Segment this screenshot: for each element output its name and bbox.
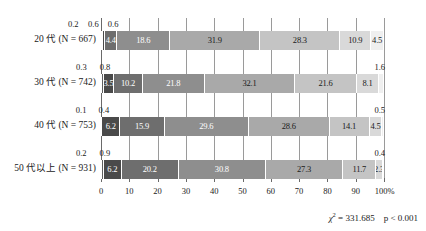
tick-label-60: 60 <box>267 186 276 196</box>
chi-square-exponent: 2 <box>333 211 336 218</box>
segment-callout-label: 0.4 <box>99 105 110 115</box>
bar-segment: 3.5 <box>104 74 114 93</box>
segment-value-label: 28.3 <box>293 36 307 45</box>
segment-value-label: 29.6 <box>199 122 213 131</box>
segment-value-label: 21.6 <box>318 79 332 88</box>
segment-value-label: 28.6 <box>282 122 296 131</box>
tick-label-90: 90 <box>351 186 360 196</box>
bar-segment: 6.2 <box>104 160 122 179</box>
bar-segment: 30.8 <box>179 160 266 179</box>
tick-100 <box>384 178 385 182</box>
bar-segment: 21.8 <box>143 74 205 93</box>
tick-label-80: 80 <box>323 186 332 196</box>
tick-label-10: 10 <box>125 186 134 196</box>
tick-label-100%: 100% <box>375 186 395 196</box>
bar-segment: 6.2 <box>102 117 120 136</box>
bar-segment <box>383 160 384 179</box>
segment-callout-label: 0.8 <box>100 62 111 72</box>
bar-segment <box>382 117 383 136</box>
segment-callout-label: 0.1 <box>76 105 87 115</box>
bar-segment: 29.6 <box>165 117 249 136</box>
segment-callout-label-right: 0.5 <box>374 105 385 115</box>
tick-label-70: 70 <box>295 186 304 196</box>
segment-value-label: 20.2 <box>143 165 157 174</box>
segment-value-label: 3.5 <box>104 79 113 88</box>
chi-square-value: = 331.685 <box>338 213 375 223</box>
segment-value-label: 18.6 <box>136 36 150 45</box>
bar-segment: 10.2 <box>114 74 143 93</box>
bar-segment: 27.3 <box>266 160 343 179</box>
segment-callout-label-right: 1.6 <box>374 62 385 72</box>
segment-value-label: 6.2 <box>107 165 117 174</box>
bar-segment: 32.1 <box>205 74 296 93</box>
tick-label-20: 20 <box>153 186 162 196</box>
bar-segment: 18.6 <box>117 31 170 50</box>
tick-label-30: 30 <box>182 186 191 196</box>
segment-value-label: 30.8 <box>215 165 229 174</box>
segment-value-label: 32.1 <box>242 79 256 88</box>
y-axis-label-row-3: 50 代以上 (N = 931) <box>14 160 96 174</box>
segment-callout-label: 0.6 <box>108 19 119 29</box>
segment-value-label: 8.1 <box>362 79 372 88</box>
segment-callout-label: 0.6 <box>88 19 99 29</box>
segment-value-label: 10.2 <box>121 79 135 88</box>
y-axis-label-row-2: 40 代 (N = 753) <box>34 117 96 131</box>
plot-area: 0102030405060708090100% 4.418.631.928.31… <box>101 18 384 178</box>
segment-value-label: 15.9 <box>135 122 149 131</box>
bar-row: 6.220.230.827.311.72.3 <box>101 160 384 179</box>
bar-segment: 28.6 <box>249 117 330 136</box>
bar-segment: 4.5 <box>371 31 384 50</box>
segment-value-label: 14.1 <box>342 122 356 131</box>
bar-segment: 4.4 <box>105 31 117 50</box>
segment-value-label: 27.3 <box>297 165 311 174</box>
bar-segment: 2.3 <box>376 160 383 179</box>
bar-row: 4.418.631.928.310.94.5 <box>101 31 384 50</box>
segment-value-label: 31.9 <box>208 36 222 45</box>
segment-value-label: 11.7 <box>352 165 366 174</box>
y-axis-label-row-1: 30 代 (N = 742) <box>34 74 96 88</box>
y-axis-label-row-0: 20 代 (N = 667) <box>34 31 96 45</box>
segment-callout-label-right: 0.4 <box>374 148 385 158</box>
tick-label-40: 40 <box>210 186 219 196</box>
bar-segment: 8.1 <box>357 74 380 93</box>
segment-value-label: 6.2 <box>106 122 116 131</box>
segment-callout-label: 0.9 <box>100 148 111 158</box>
segment-value-label: 4.5 <box>370 122 380 131</box>
bar-segment: 31.9 <box>170 31 260 50</box>
p-value: p < 0.001 <box>384 213 418 223</box>
bar-row: 3.510.221.832.121.68.1 <box>101 74 384 93</box>
segment-callout-label: 0.2 <box>76 148 87 158</box>
tick-label-50: 50 <box>238 186 247 196</box>
segment-callout-label: 0.3 <box>76 62 87 72</box>
bar-segment <box>379 74 384 93</box>
segment-callout-label: 0.2 <box>68 19 79 29</box>
segment-value-label: 10.9 <box>348 36 362 45</box>
bar-segment: 15.9 <box>120 117 165 136</box>
bar-segment: 21.6 <box>295 74 356 93</box>
bar-segment: 10.9 <box>340 31 371 50</box>
segment-value-label: 2.3 <box>376 165 383 174</box>
bar-segment: 4.5 <box>370 117 383 136</box>
bar-segment: 28.3 <box>260 31 340 50</box>
bar-segment: 11.7 <box>343 160 376 179</box>
segment-value-label: 4.5 <box>372 36 382 45</box>
bar-segment: 14.1 <box>330 117 370 136</box>
bar-row: 6.215.929.628.614.14.5 <box>101 117 384 136</box>
statistics-annotation: χ2 = 331.685p < 0.001 <box>329 211 418 223</box>
stacked-bar-chart: 20 代 (N = 667) 30 代 (N = 742) 40 代 (N = … <box>0 0 426 231</box>
segment-value-label: 21.8 <box>166 79 180 88</box>
segment-value-label: 4.4 <box>106 36 116 45</box>
bar-segment: 20.2 <box>122 160 179 179</box>
tick-label-0: 0 <box>99 186 103 196</box>
